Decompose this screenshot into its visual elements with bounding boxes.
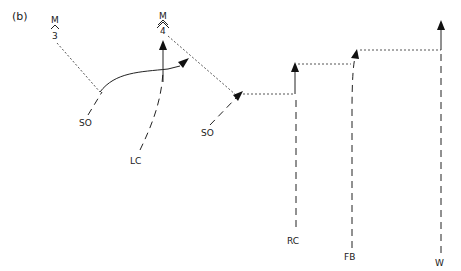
so1-dashed-line	[88, 92, 102, 115]
m3-top-label: M	[51, 15, 59, 25]
so2-dashed-line	[210, 98, 236, 125]
arrow-head-icon	[233, 91, 243, 101]
pedigree-diagram: (b) M 3 SO M 4 LC SO RC FB	[0, 0, 461, 271]
arrow-head-icon	[291, 62, 299, 72]
m3-dotted-link	[57, 43, 100, 92]
m4-dotted-link	[168, 36, 236, 95]
node-m4: M 4	[157, 11, 169, 36]
arrow-head-icon	[351, 49, 359, 59]
w-label: W	[435, 258, 444, 268]
lc-label: LC	[130, 156, 141, 166]
so1-solid-curve	[100, 66, 180, 92]
arrow-head-icon	[437, 20, 445, 30]
lc-dashed-line	[140, 70, 163, 150]
so1-label: SO	[79, 118, 92, 128]
so2-label: SO	[201, 128, 214, 138]
fb-dashed-line	[352, 58, 355, 248]
arrow-head-icon	[159, 40, 167, 50]
fb-label: FB	[344, 252, 355, 262]
m4-bottom-label: 4	[160, 26, 166, 36]
panel-label: (b)	[12, 10, 28, 23]
node-m3: M 3	[51, 15, 59, 41]
m3-bottom-label: 3	[52, 31, 58, 41]
caret-icon	[51, 25, 59, 29]
rc-label: RC	[287, 236, 299, 246]
